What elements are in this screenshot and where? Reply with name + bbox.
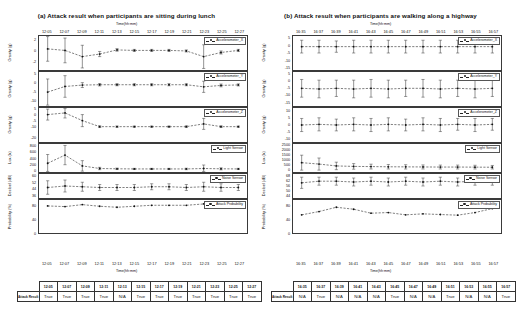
subplot-accelerometer-y: Accelerometer_Y [38, 71, 248, 107]
legend-marker-icon [206, 111, 215, 115]
table-time-header: 16:35 [293, 282, 312, 292]
attack-result-cell: True [132, 292, 151, 302]
y-tick-label: 68 [286, 174, 290, 178]
y-tick-label: 0 [288, 123, 290, 127]
table-time-header: 12:19 [169, 282, 188, 292]
x-tick-label: 16:51 [436, 29, 446, 34]
legend-label: Noise Sensor [222, 176, 243, 181]
y-tick-label: 0 [34, 113, 36, 117]
y-tick-label: -5 [33, 119, 36, 123]
table-row-label: Attack Result [272, 292, 294, 302]
table-time-header: 16:55 [478, 282, 497, 292]
x-tick-label: 12:25 [217, 261, 227, 266]
subplot-accelerometer-y: Accelerometer_Y [292, 71, 502, 107]
y-ticks-attack-probability: 80400 [271, 199, 290, 234]
subplot-accelerometer-x: Accelerometer_X [38, 35, 248, 71]
legend-marker-icon [206, 39, 215, 43]
table-row-label: Attack Result [18, 292, 40, 302]
panel-b-xlabel-bottom: Time(hh:mm) [254, 269, 507, 274]
y-tick-label: -5 [33, 90, 36, 94]
legend-accelerometer-x: Accelerometer_X [458, 37, 499, 45]
attack-result-cell: True [58, 292, 77, 302]
y-tick-label: 2500 [282, 143, 290, 147]
legend-marker-icon [206, 75, 215, 79]
legend-attack-probability: Attack Probability [204, 201, 246, 209]
legend-label: Light Sensor [223, 146, 243, 151]
attack-result-cell: N/A [349, 292, 368, 302]
x-tick-label: 16:47 [401, 29, 411, 34]
table-time-header: 12:21 [187, 282, 206, 292]
x-tick-label: 16:35 [296, 29, 306, 34]
attack-result-cell: True [187, 292, 206, 302]
x-tick-label: 12:19 [164, 29, 174, 34]
legend-light-sensor: Light Sensor [211, 145, 245, 153]
y-tick-label: 800 [30, 144, 36, 148]
x-tick-label: 16:37 [313, 29, 323, 34]
panel-a: (a) Attack result when participants are … [0, 0, 253, 313]
x-tick-label: 12:13 [112, 261, 122, 266]
panel-a-title: (a) Attack result when participants are … [0, 11, 253, 20]
legend-accelerometer-x: Accelerometer_X [204, 37, 245, 45]
x-tick-label: 16:53 [453, 261, 463, 266]
x-tick-label: 12:21 [182, 261, 192, 266]
legend-label: Accelerometer_Z [216, 110, 243, 115]
table-corner-cell [272, 282, 294, 292]
x-tick-label: 16:47 [401, 261, 411, 266]
x-tick-label: 16:45 [383, 29, 393, 34]
y-tick-label: 44 [32, 187, 36, 191]
y-ticks-noise-sensor: 6862565044 [271, 173, 290, 199]
y-tick-label: 56 [286, 184, 290, 188]
table-time-header: 12:11 [95, 282, 114, 292]
subplot-accelerometer-z: Accelerometer_Z [292, 107, 502, 143]
x-tick-label: 12:15 [129, 261, 139, 266]
legend-accelerometer-z: Accelerometer_Z [458, 109, 499, 117]
legend-marker-icon [212, 177, 221, 181]
y-ticks-light-sensor: 8006004002000 [17, 143, 36, 173]
x-tick-label: 16:49 [418, 29, 428, 34]
x-tick-label: 16:49 [418, 261, 428, 266]
y-tick-label: 60 [32, 174, 36, 178]
attack-result-cell: True [76, 292, 95, 302]
panel-a-xticks-bottom: 12:0512:0712:0912:1112:1312:1512:1712:19… [0, 261, 253, 268]
x-tick-label: 16:55 [471, 261, 481, 266]
subplot-attack-probability: Attack Probability [38, 199, 248, 234]
x-tick-label: 12:23 [199, 29, 209, 34]
y-tick-label: -15 [285, 66, 290, 70]
x-tick-label: 12:21 [182, 29, 192, 34]
panel-b-xticks-bottom: 16:3516:3716:3916:4116:4316:4516:4716:49… [254, 261, 507, 268]
y-tick-label: 0 [34, 81, 36, 85]
legend-label: Accelerometer_Y [216, 74, 243, 79]
legend-label: Accelerometer_Y [470, 74, 497, 79]
table-time-header: 16:49 [423, 282, 442, 292]
attack-result-cell: N/A [367, 292, 386, 302]
panel-a-xlabel-bottom: Time(hh:mm) [0, 269, 253, 274]
attack-result-table: 16:3516:3716:3916:4116:4316:4516:4716:49… [271, 281, 516, 302]
legend-light-sensor: Light Sensor [465, 145, 499, 153]
x-tick-label: 12:09 [77, 261, 87, 266]
x-tick-label: 16:39 [331, 29, 341, 34]
y-tick-label: 500 [284, 163, 290, 167]
legend-noise-sensor: Noise Sensor [464, 175, 500, 183]
table-time-header: 12:15 [132, 282, 151, 292]
x-tick-label: 16:51 [436, 261, 446, 266]
x-tick-label: 12:11 [95, 261, 104, 266]
x-tick-label: 16:55 [471, 29, 481, 34]
x-tick-label: 16:57 [488, 29, 498, 34]
table-time-header: 12:25 [224, 282, 243, 292]
y-tick-label: 10 [286, 109, 290, 113]
y-tick-label: 0 [288, 232, 290, 236]
legend-marker-icon [460, 39, 469, 43]
attack-result-cell: N/A [460, 292, 479, 302]
x-tick-label: 12:09 [77, 29, 87, 34]
table-header-row: 12:0512:0712:0912:1112:1312:1512:1712:19… [18, 282, 262, 292]
y-tick-label: -20 [31, 136, 36, 140]
subplot-attack-probability: Attack Probability [292, 199, 502, 234]
attack-result-cell: True [386, 292, 405, 302]
y-tick-label: 5 [288, 72, 290, 76]
subplot-light-sensor: Light Sensor [38, 143, 248, 173]
y-tick-label: 0 [34, 232, 36, 236]
y-ticks-accelerometer-z: 1050-5-10 [271, 107, 290, 143]
x-tick-label: 12:07 [59, 29, 69, 34]
table-time-header: 12:05 [39, 282, 58, 292]
